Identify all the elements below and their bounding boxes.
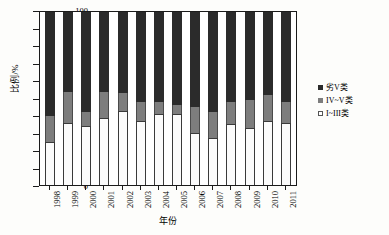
bar-segment-i-to-iii: [99, 118, 109, 185]
x-axis-tick-label: 2004: [162, 191, 171, 208]
bar-segment-worse-than-v: [245, 12, 255, 100]
bar-segment-worse-than-v: [190, 12, 200, 107]
x-axis-tick-label: 2002: [126, 191, 135, 208]
x-axis-title: 年份: [39, 214, 297, 227]
x-axis-tick-label: 2008: [234, 191, 243, 208]
bar-stack: [172, 12, 182, 185]
x-axis-tick-mark: [176, 186, 177, 190]
legend-item-label: I~III类: [326, 107, 349, 120]
bar-segment-iv-to-v: [226, 102, 236, 124]
bar-segment-i-to-iii: [45, 142, 55, 185]
bar-stack: [263, 12, 273, 185]
bar-stack: [245, 12, 255, 185]
x-axis-tick-label: 2007: [216, 191, 225, 208]
x-axis-tick-mark: [230, 186, 231, 190]
bar-segment-i-to-iii: [81, 126, 91, 185]
legend-item-label: 劣V类: [326, 81, 348, 94]
x-axis-tick-label: 2011: [289, 191, 298, 208]
bar-stack: [136, 12, 146, 185]
x-axis-tick-label: 1998: [53, 191, 62, 208]
bar-segment-i-to-iii: [208, 138, 218, 185]
bar-segment-worse-than-v: [118, 12, 128, 93]
x-axis-tick-mark: [158, 186, 159, 190]
bar-segment-iv-to-v: [281, 102, 291, 123]
x-axis-tick-mark: [122, 186, 123, 190]
x-axis-tick-mark: [85, 186, 86, 190]
bar-segment-i-to-iii: [190, 133, 200, 185]
bar-series-container: [40, 12, 296, 185]
bar-segment-worse-than-v: [136, 12, 146, 102]
bar-segment-worse-than-v: [81, 12, 91, 112]
bar-segment-iv-to-v: [63, 92, 73, 123]
black-swatch-icon: [318, 85, 323, 90]
x-axis-tick-mark: [249, 186, 250, 190]
bar-segment-iv-to-v: [263, 95, 273, 121]
x-axis-tick-label: 2005: [180, 191, 189, 208]
bar-segment-i-to-iii: [263, 121, 273, 185]
bar-stack: [45, 12, 55, 185]
bar-segment-i-to-iii: [118, 111, 128, 185]
x-axis-tick-mark: [194, 186, 195, 190]
bar-segment-worse-than-v: [263, 12, 273, 95]
legend-item: I~III类: [318, 107, 353, 120]
x-axis-tick-label: 1999: [71, 191, 80, 208]
x-axis-tick-label: 2000: [89, 191, 98, 208]
bar-segment-i-to-iii: [281, 123, 291, 185]
bar-segment-iv-to-v: [154, 102, 164, 114]
bar-stack: [226, 12, 236, 185]
bar-stack: [208, 12, 218, 185]
bar-segment-iv-to-v: [99, 92, 109, 118]
bar-segment-i-to-iii: [63, 123, 73, 185]
y-axis-tick-mark: [33, 186, 39, 187]
bar-segment-worse-than-v: [208, 12, 218, 112]
bar-segment-worse-than-v: [226, 12, 236, 102]
x-axis-tick-label: 2010: [271, 191, 280, 208]
x-axis-tick-label: 2006: [198, 191, 207, 208]
bar-segment-iv-to-v: [118, 93, 128, 110]
x-axis-tick-mark: [285, 186, 286, 190]
x-axis-tick-mark: [67, 186, 68, 190]
x-axis-tick-mark: [103, 186, 104, 190]
bar-stack: [190, 12, 200, 185]
white-swatch-icon: [318, 111, 323, 116]
bar-segment-worse-than-v: [154, 12, 164, 102]
x-axis-tick-label: 2003: [144, 191, 153, 208]
x-axis-tick-mark: [267, 186, 268, 190]
bar-segment-iv-to-v: [245, 100, 255, 128]
bar-segment-iv-to-v: [136, 102, 146, 121]
bar-segment-iv-to-v: [208, 112, 218, 138]
bar-segment-iv-to-v: [81, 112, 91, 126]
bar-segment-i-to-iii: [172, 114, 182, 185]
bar-segment-i-to-iii: [226, 124, 236, 185]
x-axis-tick-mark: [49, 186, 50, 190]
bar-segment-worse-than-v: [99, 12, 109, 92]
bar-segment-worse-than-v: [63, 12, 73, 92]
bar-stack: [63, 12, 73, 185]
y-axis-title: 比例/%: [8, 49, 21, 109]
bar-segment-iv-to-v: [190, 107, 200, 133]
bar-segment-i-to-iii: [154, 114, 164, 185]
bar-segment-worse-than-v: [281, 12, 291, 102]
bar-segment-worse-than-v: [45, 12, 55, 116]
bar-segment-iv-to-v: [172, 105, 182, 114]
legend-item: 劣V类: [318, 81, 353, 94]
bar-stack: [281, 12, 291, 185]
chart-figure: 比例/% 0102030405060708090100 199819992000…: [0, 0, 389, 235]
bar-segment-i-to-iii: [136, 121, 146, 185]
legend-item: IV~V类: [318, 94, 353, 107]
x-axis-tick-label: 2001: [107, 191, 116, 208]
x-axis-tick-mark: [212, 186, 213, 190]
bar-stack: [99, 12, 109, 185]
bar-stack: [118, 12, 128, 185]
bar-stack: [81, 12, 91, 185]
x-axis-tick-label: 2009: [253, 191, 262, 208]
x-axis-tick-mark: [140, 186, 141, 190]
bar-stack: [154, 12, 164, 185]
gray-swatch-icon: [318, 98, 323, 103]
legend-item-label: IV~V类: [326, 94, 353, 107]
bar-segment-i-to-iii: [245, 128, 255, 185]
bar-segment-worse-than-v: [172, 12, 182, 105]
bar-segment-iv-to-v: [45, 116, 55, 142]
chart-legend: 劣V类IV~V类I~III类: [318, 81, 353, 120]
plot-area: [39, 11, 297, 186]
